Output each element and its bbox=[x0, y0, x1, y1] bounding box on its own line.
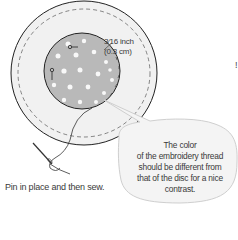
callout-line: should be different from bbox=[122, 162, 238, 173]
seam-allowance-cm: (0.3 cm) bbox=[104, 47, 148, 57]
instruction-caption: Pin in place and then sew. bbox=[5, 183, 104, 193]
callout-line: that of the disc for a nice bbox=[122, 173, 238, 184]
seam-allowance-label: 3⁄16 inch (0.3 cm) bbox=[104, 37, 148, 56]
callout-text: The color of the embroidery thread shoul… bbox=[122, 140, 238, 195]
needle-icon bbox=[33, 143, 53, 164]
seam-allowance-inch: 3⁄16 inch bbox=[104, 37, 148, 47]
callout-line: The color bbox=[122, 140, 238, 151]
callout-line: of the embroidery thread bbox=[122, 151, 238, 162]
cropped-edge-mark: ! bbox=[235, 61, 237, 71]
callout-line: contrast. bbox=[122, 184, 238, 195]
